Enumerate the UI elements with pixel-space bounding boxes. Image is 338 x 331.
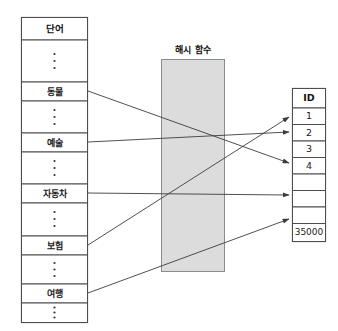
word-table-row[interactable]: 보험 [22, 236, 88, 255]
id-table-header-label: ID [303, 92, 315, 103]
word-cell-label: 예술 [47, 137, 63, 148]
id-cell-label: 2 [306, 127, 312, 138]
word-cell-label: 보험 [47, 240, 63, 251]
id-cell-label: 35000 [295, 227, 324, 237]
word-table-ellipsis-row [22, 101, 88, 133]
id-table-row[interactable] [293, 191, 326, 208]
id-table-row[interactable]: 35000 [293, 224, 326, 242]
word-table-ellipsis-row [22, 40, 88, 82]
word-table-row[interactable]: 동물 [22, 82, 88, 101]
word-table-header-label: 단어 [46, 23, 64, 34]
id-table-row[interactable]: 2 [293, 125, 326, 142]
hash-function-diagram: 단어 동물 예술 [0, 0, 338, 331]
id-table: ID 1 2 3 4 [293, 89, 326, 242]
word-table-row[interactable]: 여행 [22, 284, 88, 303]
id-table-row[interactable] [293, 207, 326, 224]
word-table-ellipsis-row [22, 255, 88, 284]
id-table-row[interactable]: 4 [293, 158, 326, 175]
id-table-row[interactable]: 1 [293, 108, 326, 125]
id-cell-label: 1 [306, 110, 312, 121]
word-table-ellipsis-row [22, 152, 88, 184]
word-cell-label: 여행 [47, 288, 63, 299]
word-table-header: 단어 [22, 18, 88, 41]
word-table-row[interactable]: 자동차 [22, 184, 88, 203]
id-cell-label: 3 [306, 143, 312, 154]
word-cell-label: 동물 [47, 87, 63, 97]
hash-function-rect [162, 60, 225, 272]
id-cell-label: 4 [306, 160, 312, 171]
word-cell-label: 자동차 [43, 188, 68, 199]
hash-function-label: 해시 함수 [175, 44, 210, 55]
word-table-ellipsis-row [22, 203, 88, 236]
id-table-header: ID [293, 89, 326, 109]
id-table-row[interactable] [293, 174, 326, 191]
word-table: 단어 동물 예술 [22, 18, 88, 323]
word-table-ellipsis-row [22, 303, 88, 323]
word-table-row[interactable]: 예술 [22, 133, 88, 152]
id-table-row[interactable]: 3 [293, 141, 326, 158]
hash-function-box: 해시 함수 [162, 44, 225, 272]
